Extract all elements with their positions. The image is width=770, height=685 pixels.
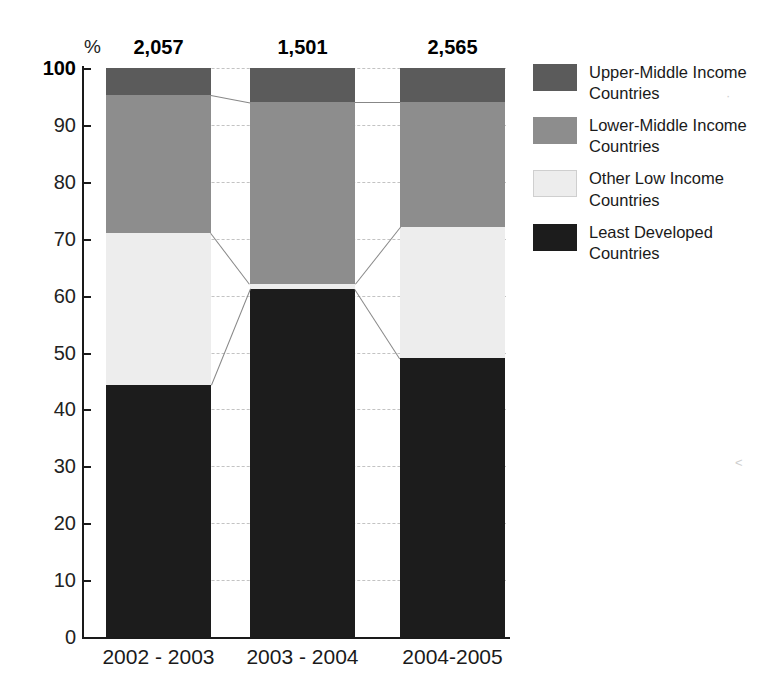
bar-segment-least-dev <box>250 289 355 637</box>
y-axis-tick-label: 100 <box>22 58 76 78</box>
scan-artifact: · <box>726 88 730 103</box>
x-axis-category-label: 2004-2005 <box>373 645 533 669</box>
legend-label: Lower-Middle Income Countries <box>589 115 761 157</box>
x-axis-line <box>82 637 510 639</box>
bar-segment-other-low <box>400 227 505 358</box>
bar-segment-lower-middle <box>250 102 355 284</box>
bar-2 <box>250 68 355 637</box>
stack-connector-line <box>354 289 400 359</box>
y-axis-tick-label: 50 <box>22 343 76 363</box>
bar-segment-least-dev <box>400 358 505 637</box>
stack-connector-line <box>211 95 250 103</box>
stacked-bar-chart: % 1009080706050403020100 2,0571,5012,565… <box>0 0 770 685</box>
legend-item-lower-middle: Lower-Middle Income Countries <box>533 115 763 157</box>
legend-item-least-dev: Least Developed Countries <box>533 222 763 264</box>
bar-segment-upper-middle <box>106 68 211 95</box>
legend-label: Least Developed Countries <box>589 222 761 264</box>
bar-segment-lower-middle <box>400 102 505 227</box>
legend-label: Other Low Income Countries <box>589 168 761 210</box>
legend-swatch-lower-middle <box>533 117 577 144</box>
legend-swatch-upper-middle <box>533 64 577 91</box>
y-axis-tick-label: 40 <box>22 399 76 419</box>
legend-swatch-other-low <box>533 170 577 197</box>
x-axis-category-label: 2002 - 2003 <box>79 645 239 669</box>
stack-connector-line <box>355 227 401 285</box>
bar-1 <box>106 68 211 637</box>
y-axis-tick-label: 60 <box>22 286 76 306</box>
bar-segment-least-dev <box>106 385 211 637</box>
scan-artifact: < <box>735 455 743 470</box>
bar-segment-upper-middle <box>250 68 355 102</box>
plot-area <box>106 68 506 637</box>
bar-segment-upper-middle <box>400 68 505 102</box>
legend-item-other-low: Other Low Income Countries <box>533 168 763 210</box>
stack-connector-line <box>355 102 400 103</box>
y-axis-tick-label: 70 <box>22 229 76 249</box>
bar-segment-other-low <box>250 284 355 289</box>
y-axis-tick-label: 90 <box>22 115 76 135</box>
y-axis-tick-label: 0 <box>22 627 76 647</box>
y-axis-tick-label: 80 <box>22 172 76 192</box>
y-axis-tick-label: 10 <box>22 570 76 590</box>
bar-segment-other-low <box>106 233 211 385</box>
y-axis-tick-label: 30 <box>22 456 76 476</box>
stack-connector-line <box>211 289 251 386</box>
legend-label: Upper-Middle Income Countries <box>589 62 761 104</box>
bar-total-label: 2,057 <box>89 36 229 59</box>
y-axis-tick-label: 20 <box>22 513 76 533</box>
bar-total-label: 2,565 <box>383 36 523 59</box>
x-axis-category-label: 2003 - 2004 <box>223 645 383 669</box>
bar-3 <box>400 68 505 637</box>
stack-connector-line <box>210 233 250 285</box>
y-axis-line <box>82 66 84 639</box>
bar-total-label: 1,501 <box>233 36 373 59</box>
bar-segment-lower-middle <box>106 95 211 233</box>
legend-swatch-least-dev <box>533 224 577 251</box>
